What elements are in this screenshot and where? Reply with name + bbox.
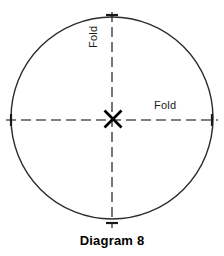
center-x-mark-icon xyxy=(105,111,122,128)
fold-diagram-canvas xyxy=(0,0,224,256)
diagram-figure: Fold Fold Diagram 8 xyxy=(0,0,224,256)
diagram-caption: Diagram 8 xyxy=(0,234,224,247)
fold-label-horizontal: Fold xyxy=(154,100,176,111)
fold-label-vertical: Fold xyxy=(88,26,99,48)
